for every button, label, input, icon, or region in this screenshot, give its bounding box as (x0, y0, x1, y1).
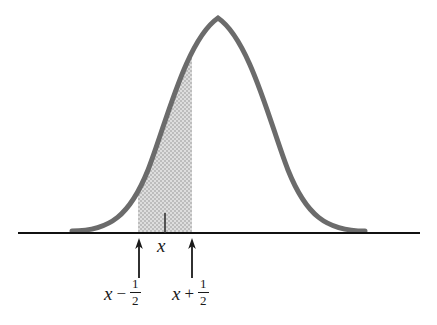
distribution-figure (0, 0, 437, 325)
one-half-fraction: 1 2 (198, 277, 209, 307)
fraction-denominator: 2 (198, 294, 209, 308)
minus-sign: − (116, 285, 126, 302)
center-value-label: x (157, 236, 165, 255)
center-value-text: x (157, 235, 165, 256)
plus-sign: + (184, 285, 194, 302)
figure-background (0, 0, 437, 325)
one-half-fraction: 1 2 (130, 277, 141, 307)
upper-bound-variable: x (172, 284, 180, 303)
upper-bound-label: x + 1 2 (172, 278, 209, 308)
lower-bound-variable: x (104, 284, 112, 303)
fraction-denominator: 2 (130, 294, 141, 308)
lower-bound-label: x − 1 2 (104, 278, 141, 308)
fraction-numerator: 1 (198, 277, 209, 291)
fraction-numerator: 1 (130, 277, 141, 291)
